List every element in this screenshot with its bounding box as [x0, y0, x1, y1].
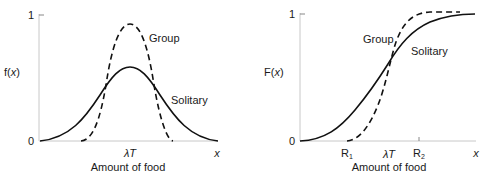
right-x-axis-title: Amount of food: [352, 161, 427, 173]
left-chart: 1 0 f(x) Group Solitary λT x Amount of f…: [4, 9, 220, 173]
right-y-label-0: 0: [289, 135, 295, 147]
right-group-label: Group: [363, 33, 394, 45]
left-lambda-tick-label: λT: [123, 147, 137, 159]
right-x-end-label: x: [472, 147, 479, 159]
left-x-axis-title: Amount of food: [91, 161, 166, 173]
right-chart: 1 0 F(x) Group Solitary R1 λT R2 x Amoun…: [264, 8, 479, 173]
right-lambda-tick-label: λT: [382, 148, 396, 160]
left-group-label: Group: [149, 32, 180, 44]
left-solitary-label: Solitary: [171, 94, 208, 106]
right-r1-tick-label: R1: [341, 147, 353, 160]
left-y-label-0: 0: [28, 135, 34, 147]
right-y-axis-title: F(x): [264, 66, 284, 78]
right-y-label-1: 1: [289, 8, 295, 20]
left-y-label-1: 1: [28, 9, 34, 21]
right-r2-tick-label: R2: [413, 147, 425, 160]
left-y-axis-title: f(x): [4, 66, 20, 78]
right-group-curve: [347, 12, 460, 141]
left-x-end-label: x: [213, 147, 220, 159]
figure: 1 0 f(x) Group Solitary λT x Amount of f…: [0, 0, 494, 182]
right-solitary-label: Solitary: [411, 45, 448, 57]
